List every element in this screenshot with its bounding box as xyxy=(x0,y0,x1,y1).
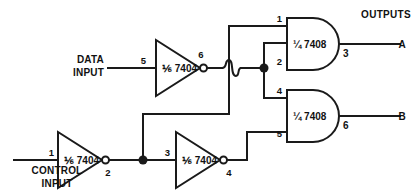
output-label-a: A xyxy=(399,39,406,50)
inverter-control-bubble xyxy=(102,157,109,164)
chip-label-inverter-control-2: ⅙ 7404 xyxy=(182,155,217,166)
inverter-data-bubble xyxy=(200,65,207,72)
pin-label-and-b-top: 4 xyxy=(277,85,283,96)
outputs-group-label: OUTPUTS xyxy=(361,9,411,20)
input-label-data-line1: DATA xyxy=(77,54,104,65)
pin-label-inverter-control2-in: 3 xyxy=(165,147,170,158)
pin-label-and-b-out: 6 xyxy=(343,120,349,131)
pin-label-and-a-top: 1 xyxy=(277,13,283,24)
circuit-diagram-canvas: 5 6 1 2 3 4 1 2 3 4 5 6 ⅙ 7404 ⅙ 7404 ⅙ … xyxy=(0,0,412,194)
chip-label-and-gate-a: ¼ 7408 xyxy=(293,39,327,50)
pin-label-inverter-control-in: 1 xyxy=(49,147,55,158)
input-label-control-line2: INPUT xyxy=(42,178,73,189)
pin-label-and-a-bottom: 2 xyxy=(277,56,282,67)
circuit-schematic: 5 6 1 2 3 4 1 2 3 4 5 6 ⅙ 7404 ⅙ 7404 ⅙ … xyxy=(0,0,412,194)
wire-hop-crossing xyxy=(222,60,241,76)
input-label-control-line1: CONTROL xyxy=(32,165,83,176)
chip-label-inverter-data: ⅙ 7404 xyxy=(162,63,197,74)
wire-data-to-and-a-pin2 xyxy=(264,43,287,68)
pin-label-inverter-control2-out: 4 xyxy=(226,167,232,178)
pin-label-inverter-control-out: 2 xyxy=(105,167,110,178)
input-label-data-line2: INPUT xyxy=(73,67,104,78)
pin-label-inverter-data-out: 6 xyxy=(198,49,203,60)
pin-label-and-a-out: 3 xyxy=(343,48,349,59)
wire-data-to-and-b-pin4 xyxy=(264,68,287,98)
pin-label-and-b-bottom: 5 xyxy=(277,128,283,139)
pin-label-inverter-data-in: 5 xyxy=(141,55,147,66)
output-label-b: B xyxy=(399,111,406,122)
chip-label-and-gate-b: ¼ 7408 xyxy=(293,111,327,122)
inverter-control-2-bubble xyxy=(220,157,227,164)
